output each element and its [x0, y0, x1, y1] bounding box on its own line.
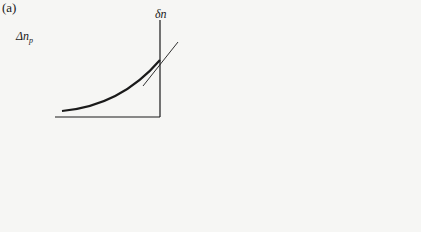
panel-label: (a)	[2, 0, 16, 15]
left-y-axis-label: δn	[155, 7, 167, 21]
left-plot: δn Δnp	[15, 7, 178, 117]
diagram-canvas: (a) δn Δnp	[0, 0, 421, 232]
left-excess-electron-curve	[62, 60, 160, 111]
left-point-label: Δnp	[15, 29, 33, 45]
